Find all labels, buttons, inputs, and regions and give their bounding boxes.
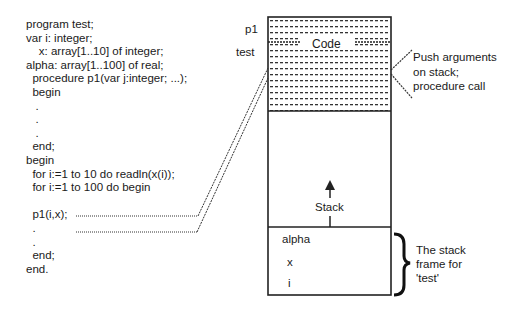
code-region xyxy=(268,18,390,111)
push-annotation-3: procedure call xyxy=(413,80,485,92)
push-annotation-1: Push arguments xyxy=(413,51,497,63)
label-test: test xyxy=(236,46,255,58)
code-label: Code xyxy=(312,37,341,51)
frame-annotation-1: The stack xyxy=(416,244,466,256)
frame-annotation-3: 'test' xyxy=(416,272,439,284)
frame-var-i: i xyxy=(288,277,291,289)
brace-icon xyxy=(394,234,410,295)
label-p1: p1 xyxy=(245,23,258,35)
frame-annotation-2: frame for xyxy=(416,258,462,270)
push-annotation-2: on stack; xyxy=(413,66,459,78)
stack-label: Stack xyxy=(315,201,344,213)
frame-var-alpha: alpha xyxy=(282,233,310,245)
frame-var-x: x xyxy=(287,256,293,268)
call-connector xyxy=(198,68,268,216)
